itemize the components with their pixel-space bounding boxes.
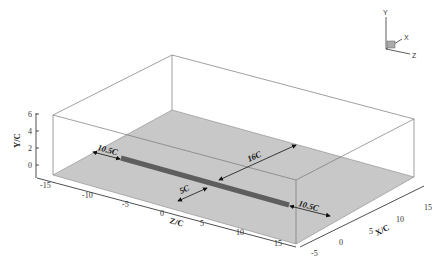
y-axis-label: Y/C [12,133,22,148]
z-axis-label: Z/C [168,215,184,228]
z-tick-15: 15 [274,239,282,248]
z-tick-0: 0 [160,209,164,218]
orientation-triad: Y X Z [383,9,417,59]
ground-plane [53,110,414,244]
z-tick--10: -10 [82,191,93,200]
x-axis-label: X/C [373,222,391,238]
z-tick--5: -5 [122,200,129,209]
z-tick--15: -15 [40,181,51,190]
y-tick-0: 0 [28,161,32,170]
y-axis [36,113,39,178]
x-tick-10: 10 [396,215,404,224]
triad-y-label: Y [383,9,388,16]
y-tick-6: 6 [28,110,32,119]
y-tick-4: 4 [28,127,32,136]
z-tick-10: 10 [236,228,244,237]
z-tick-5: 5 [200,219,204,228]
x-tick-15: 15 [424,203,432,212]
triad-cube-icon [387,41,395,48]
triad-z-label: Z [412,52,417,59]
y-tick-2: 2 [28,144,32,153]
x-tick--5: -5 [311,249,318,258]
x-tick-0: 0 [339,238,343,247]
triad-x-label: X [404,34,409,41]
domain-diagram: 10.5C 10.5C 16C 5C 6 4 2 0 Y/C -15 -10 -… [0,0,448,262]
